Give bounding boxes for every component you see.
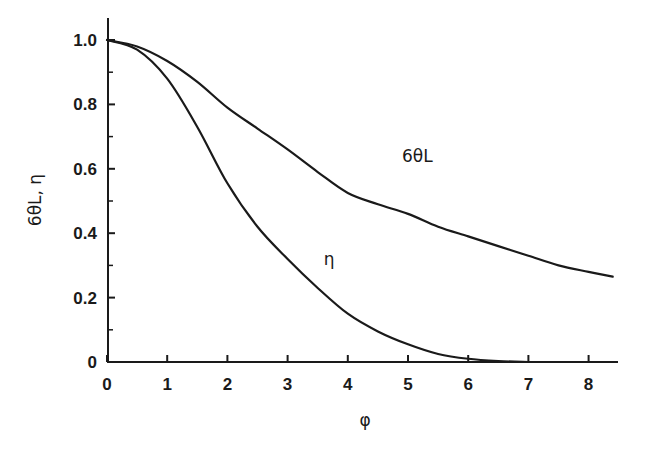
y-tick-label: 0.8 bbox=[73, 95, 97, 114]
x-tick-label: 8 bbox=[584, 375, 593, 394]
x-tick-label: 0 bbox=[102, 375, 111, 394]
label-eta: η bbox=[324, 249, 335, 269]
curve-eta bbox=[107, 40, 528, 362]
x-tick-label: 2 bbox=[223, 375, 232, 394]
curve-labels: 6θLη bbox=[324, 146, 433, 269]
x-tick-label: 3 bbox=[283, 375, 292, 394]
label-theta-l: 6θL bbox=[402, 146, 433, 166]
y-tick-label: 0.2 bbox=[73, 289, 97, 308]
curve-theta-l bbox=[107, 40, 613, 277]
x-tick-label: 7 bbox=[524, 375, 533, 394]
y-tick-label: 0.4 bbox=[73, 224, 97, 243]
axes bbox=[107, 18, 618, 363]
y-axis-label: 6θL, η bbox=[25, 174, 45, 226]
y-tick-label: 0 bbox=[88, 353, 97, 372]
x-tick-label: 4 bbox=[343, 375, 353, 394]
x-tick-label: 1 bbox=[162, 375, 171, 394]
x-axis-label: φ bbox=[359, 410, 370, 430]
curves bbox=[107, 40, 613, 362]
y-tick-label: 0.6 bbox=[73, 160, 97, 179]
chart: 012345678 00.20.40.60.81.0 6θLη φ 6θL, η bbox=[0, 0, 653, 453]
x-tick-label: 5 bbox=[403, 375, 412, 394]
y-tick-label: 1.0 bbox=[73, 31, 97, 50]
x-tick-label: 6 bbox=[463, 375, 472, 394]
